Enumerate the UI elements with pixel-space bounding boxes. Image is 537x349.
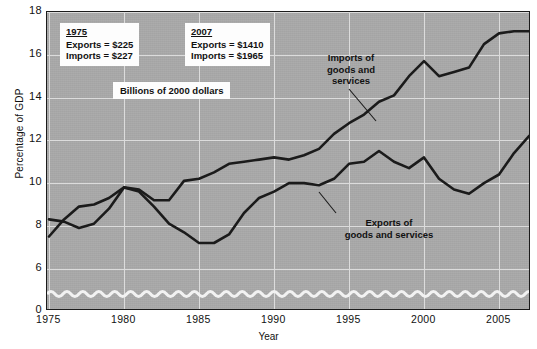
x-tick-label-2005: 2005	[486, 313, 511, 325]
imports-series-label-line1: Imports of	[305, 52, 397, 64]
exports-series-label-line1: Exports of	[321, 217, 457, 229]
callout-2007-imports: Imports = $1965	[191, 50, 264, 62]
callout-2007: 2007 Exports = $1410 Imports = $1965	[185, 23, 270, 66]
figure-root: 1816141210860 Percentage of GDP 1975 Exp…	[0, 0, 537, 349]
exports-series-label-line2: goods and services	[321, 229, 457, 241]
x-tick-label-2000: 2000	[411, 313, 436, 325]
callout-2007-year: 2007	[191, 26, 264, 38]
x-axis-title: Year	[0, 331, 537, 342]
y-tick-label-18: 18	[6, 4, 42, 16]
x-tick-label-1985: 1985	[186, 313, 211, 325]
callout-1975: 1975 Exports = $225 Imports = $227	[60, 23, 139, 66]
y-tick-label-6: 6	[6, 261, 42, 273]
y-tick-label-8: 8	[6, 218, 42, 230]
axis-break-wave	[47, 288, 529, 300]
callout-1975-imports: Imports = $227	[66, 50, 133, 62]
x-tick-label-1975: 1975	[36, 313, 61, 325]
x-tick-label-1980: 1980	[111, 313, 136, 325]
callout-1975-year: 1975	[66, 26, 133, 38]
callout-2007-exports: Exports = $1410	[191, 39, 264, 51]
x-tick-label-1990: 1990	[261, 313, 286, 325]
units-note: Billions of 2000 dollars	[113, 82, 230, 99]
imports-series-label-line3: services	[305, 75, 397, 87]
y-axis-title: Percentage of GDP	[14, 69, 25, 199]
imports-series-label-line2: goods and	[305, 64, 397, 76]
x-tick-label-1995: 1995	[336, 313, 361, 325]
y-tick-label-16: 16	[6, 47, 42, 59]
imports-series-label: Imports of goods and services	[305, 52, 397, 87]
top-caption-sliver	[46, 0, 346, 5]
callout-1975-exports: Exports = $225	[66, 39, 133, 51]
exports-series-label: Exports of goods and services	[321, 217, 457, 240]
